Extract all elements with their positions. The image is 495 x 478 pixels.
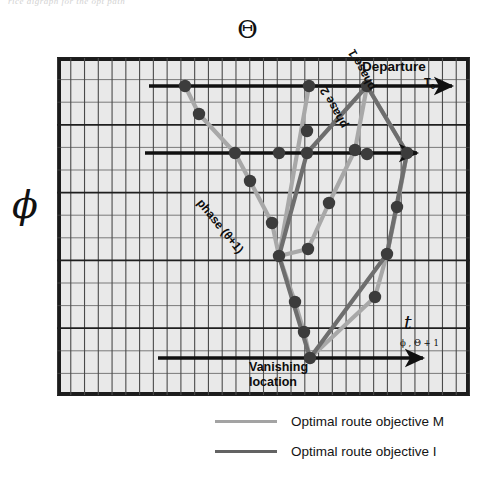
t0-base: T	[424, 76, 431, 88]
legend-label-m: Optimal route objective M	[291, 414, 444, 429]
faint-caption: rice digraph for the opt path	[8, 0, 125, 6]
vanishing-label-line1: Vanishing	[249, 360, 308, 374]
legend-swatch-m	[215, 420, 277, 423]
t-axis-label: t	[404, 311, 412, 333]
legend-item: Optimal route objective M	[0, 406, 495, 436]
legend-item: Optimal route objective I	[0, 436, 495, 466]
vanishing-label-line2: location	[249, 375, 297, 389]
legend: Optimal route objective M Optimal route …	[0, 406, 495, 466]
theta-axis-label: Θ	[0, 17, 495, 42]
t0-label: T0	[424, 76, 435, 91]
figure-canvas: rice digraph for the opt path Θ ϕ Depart…	[0, 0, 495, 478]
t-axis-subscript: ϕ , Θ + 1	[400, 338, 439, 348]
t0-subscript: 0	[431, 82, 435, 91]
legend-label-i: Optimal route objective I	[291, 444, 437, 459]
departure-label: Departure	[362, 59, 426, 74]
legend-swatch-i	[215, 450, 277, 453]
phi-axis-label: ϕ	[12, 186, 38, 224]
